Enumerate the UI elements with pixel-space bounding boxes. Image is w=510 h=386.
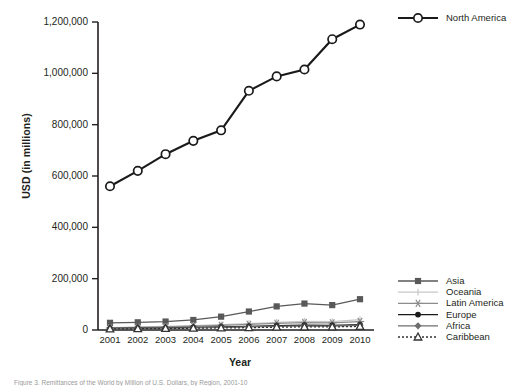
- data-point-marker: [134, 167, 142, 175]
- legend-label[interactable]: Africa: [446, 321, 470, 332]
- x-tick-label: 2010: [340, 334, 380, 345]
- data-point-marker: [274, 303, 280, 309]
- series-line: [110, 299, 360, 323]
- data-point-marker: [414, 14, 422, 22]
- data-point-marker: [415, 278, 421, 284]
- data-point-marker: [329, 302, 335, 308]
- data-point-marker: [301, 300, 307, 306]
- legend-label[interactable]: Asia: [446, 276, 464, 287]
- data-point-marker: [161, 150, 169, 158]
- data-point-marker: [357, 296, 363, 302]
- data-point-marker: [415, 312, 421, 318]
- data-point-marker: [414, 300, 422, 307]
- data-point-marker: [246, 308, 252, 314]
- figure-caption: Figure 3. Remittances of the World by Mi…: [14, 379, 484, 386]
- data-point-marker: [414, 322, 421, 329]
- chart-figure: USD (in millions) Year 1,200,0001,000,00…: [0, 0, 510, 386]
- data-point-marker: [245, 87, 253, 95]
- legend-label[interactable]: Caribbean: [446, 332, 490, 343]
- legend-swatches: [396, 273, 442, 344]
- data-point-marker: [272, 72, 280, 80]
- data-point-marker: [106, 182, 114, 190]
- data-point-marker: [328, 35, 336, 43]
- data-point-marker: [218, 314, 224, 320]
- legend-label[interactable]: North America: [446, 13, 506, 24]
- legend-label[interactable]: Europe: [446, 310, 477, 321]
- data-point-marker: [217, 126, 225, 134]
- data-point-marker: [356, 20, 364, 28]
- series-north-america: [106, 20, 364, 190]
- series-line: [110, 25, 360, 187]
- legend-swatches: [396, 10, 442, 26]
- legend-label[interactable]: Latin America: [446, 298, 504, 309]
- data-point-marker: [190, 317, 196, 323]
- data-point-marker: [300, 65, 308, 73]
- legend-label[interactable]: Oceania: [446, 287, 481, 298]
- data-point-marker: [189, 137, 197, 145]
